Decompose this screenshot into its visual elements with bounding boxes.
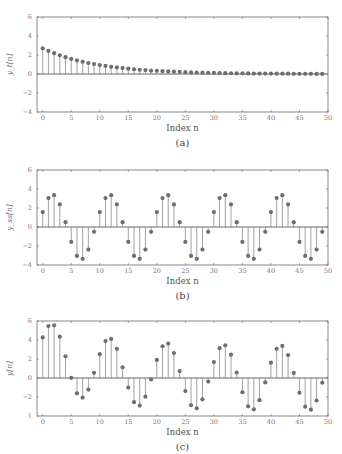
- x-tick-label: 30: [210, 418, 218, 426]
- y-tick-label: 0: [28, 223, 32, 231]
- stem-marker: [75, 58, 79, 62]
- stem-marker: [257, 398, 261, 402]
- stem-marker: [229, 202, 233, 206]
- stem-marker: [126, 385, 130, 389]
- stem-marker: [149, 377, 153, 381]
- plot-frame: [37, 17, 328, 112]
- stem-marker: [269, 72, 273, 76]
- stem-marker: [86, 387, 90, 391]
- stem-marker: [303, 72, 307, 76]
- stem-marker: [303, 405, 307, 409]
- stem-marker: [52, 323, 56, 327]
- stem-marker: [206, 71, 210, 75]
- stem-marker: [183, 70, 187, 74]
- stem-marker: [75, 254, 79, 258]
- stem-marker: [126, 67, 130, 71]
- stem-marker: [69, 240, 73, 244]
- stem-marker: [109, 193, 113, 197]
- x-tick-label: 25: [181, 114, 189, 122]
- stem-marker: [269, 361, 273, 365]
- y-tick-label: 4: [28, 336, 32, 344]
- x-tick-label: 45: [295, 418, 303, 426]
- stem-marker: [320, 230, 324, 234]
- stem-marker: [52, 51, 56, 55]
- stem-marker: [297, 391, 301, 395]
- stem-marker: [46, 324, 50, 328]
- stem-marker: [149, 68, 153, 72]
- stem-marker: [195, 406, 199, 410]
- y-tick-label: 6: [28, 317, 32, 325]
- stem-marker: [217, 71, 221, 75]
- stem-marker: [206, 230, 210, 234]
- y-tick-label: −4: [22, 261, 32, 269]
- stem-marker: [143, 395, 147, 399]
- stem-marker: [132, 254, 136, 258]
- stem-marker: [115, 65, 119, 69]
- x-tick-label: 50: [324, 267, 332, 275]
- y-tick-label: 2: [28, 355, 32, 363]
- stem-marker: [69, 376, 73, 380]
- chart-c: 051015202530354045501−20246y[n]Index n(c…: [5, 317, 332, 452]
- stem-marker: [178, 70, 182, 74]
- x-axis-label: Index n: [166, 427, 199, 437]
- stem-marker: [46, 49, 50, 53]
- stem-marker: [200, 397, 204, 401]
- stem-marker: [115, 202, 119, 206]
- plot-frame: [37, 321, 328, 416]
- x-tick-label: 5: [69, 114, 73, 122]
- stem-marker: [149, 230, 153, 234]
- stem-marker: [235, 370, 239, 374]
- stem-marker: [120, 220, 124, 224]
- y-tick-label: −4: [22, 108, 32, 116]
- x-tick-label: 0: [41, 267, 45, 275]
- stem-marker: [189, 70, 193, 74]
- stem-marker: [309, 257, 313, 261]
- stem-marker: [166, 193, 170, 197]
- stem-marker: [155, 210, 159, 214]
- x-tick-label: 40: [267, 114, 275, 122]
- stem-marker: [195, 257, 199, 261]
- stem-marker: [81, 257, 85, 261]
- stem-marker: [172, 351, 176, 355]
- stem-marker: [275, 72, 279, 76]
- stem-marker: [252, 407, 256, 411]
- stem-marker: [217, 196, 221, 200]
- y-tick-label: −2: [22, 89, 32, 97]
- figure-caption: (a): [176, 137, 190, 148]
- stem-marker: [223, 71, 227, 75]
- stem-marker: [189, 254, 193, 258]
- x-tick-label: 15: [124, 418, 132, 426]
- stem-marker: [103, 196, 107, 200]
- y-axis-label: y_t[n]: [5, 54, 14, 77]
- x-tick-label: 40: [267, 418, 275, 426]
- stem-marker: [58, 202, 62, 206]
- y-tick-label: 0: [28, 374, 32, 382]
- stem-marker: [212, 71, 216, 75]
- stem-marker: [280, 193, 284, 197]
- stem-marker: [297, 72, 301, 76]
- y-tick-label: 2: [28, 204, 32, 212]
- stem-marker: [178, 220, 182, 224]
- stem-marker: [212, 360, 216, 364]
- stem-marker: [314, 248, 318, 252]
- x-axis-label: Index n: [166, 276, 199, 286]
- x-tick-label: 15: [124, 114, 132, 122]
- stem-marker: [309, 408, 313, 412]
- x-tick-label: 45: [295, 267, 303, 275]
- figure-caption: (c): [176, 441, 190, 452]
- stem-marker: [103, 64, 107, 68]
- stem-marker: [41, 210, 45, 214]
- stem-marker: [280, 72, 284, 76]
- stem-marker: [286, 202, 290, 206]
- stem-marker: [223, 343, 227, 347]
- stem-marker: [155, 69, 159, 73]
- stem-marker: [263, 380, 267, 384]
- stem-marker: [160, 69, 164, 73]
- stem-marker: [195, 70, 199, 74]
- stem-marker: [252, 257, 256, 261]
- stem-marker: [160, 344, 164, 348]
- stem-marker: [58, 53, 62, 57]
- stem-marker: [52, 193, 56, 197]
- stem-marker: [189, 403, 193, 407]
- stem-marker: [132, 400, 136, 404]
